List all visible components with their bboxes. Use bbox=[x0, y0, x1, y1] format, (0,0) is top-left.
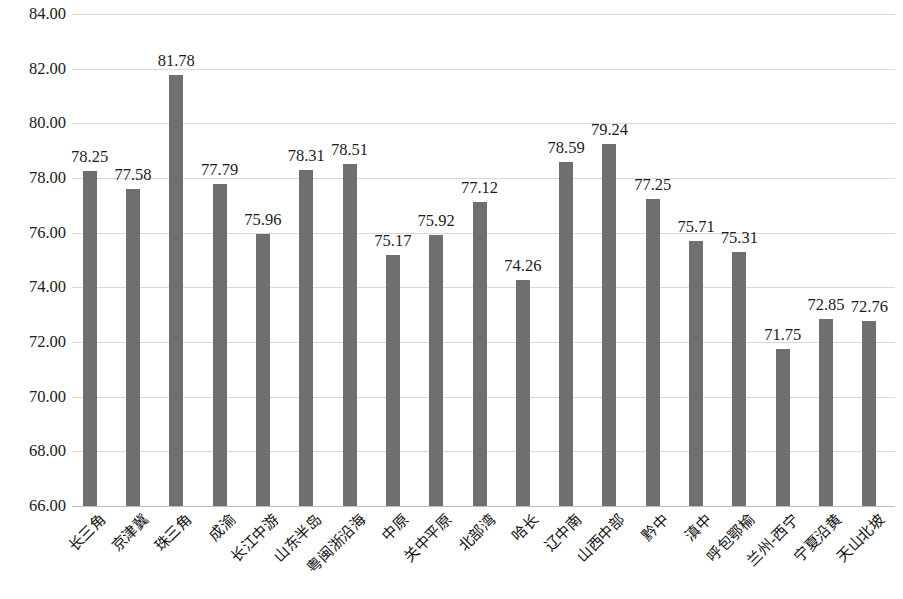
y-axis-tick-label: 74.00 bbox=[0, 279, 66, 296]
bar bbox=[776, 349, 790, 506]
bar bbox=[646, 199, 660, 507]
bar bbox=[473, 202, 487, 506]
bar bbox=[862, 321, 876, 506]
y-axis-tick-label: 78.00 bbox=[0, 170, 66, 187]
y-axis-tick-label: 82.00 bbox=[0, 60, 66, 77]
bar bbox=[213, 184, 227, 506]
bar-value-label: 75.17 bbox=[374, 233, 411, 250]
x-axis: 长三角京津冀珠三角成渝长江中游山东半岛粤闽浙沿海中原关中平原北部湾哈长辽中南山西… bbox=[72, 506, 895, 599]
gridline bbox=[72, 14, 895, 15]
bar bbox=[126, 189, 140, 506]
x-axis-tick-label: 珠三角 bbox=[152, 512, 194, 554]
bar bbox=[256, 234, 270, 506]
bar-value-label: 78.25 bbox=[71, 149, 108, 166]
gridline bbox=[72, 123, 895, 124]
x-axis-tick-label: 长三角 bbox=[66, 512, 108, 554]
gridline bbox=[72, 69, 895, 70]
bar bbox=[689, 241, 703, 506]
y-axis-tick-label: 76.00 bbox=[0, 224, 66, 241]
x-axis-tick-label: 北部湾 bbox=[456, 512, 498, 554]
bar bbox=[732, 252, 746, 506]
bar-value-label: 79.24 bbox=[591, 122, 628, 139]
bar-chart: 66.0068.0070.0072.0074.0076.0078.0080.00… bbox=[0, 0, 903, 599]
bar bbox=[429, 235, 443, 506]
x-axis-tick-label: 京津冀 bbox=[109, 512, 151, 554]
y-axis: 66.0068.0070.0072.0074.0076.0078.0080.00… bbox=[0, 14, 66, 506]
bar bbox=[169, 75, 183, 506]
x-axis-tick-label: 中原 bbox=[380, 512, 412, 544]
bar-value-label: 78.51 bbox=[331, 142, 368, 159]
bar-value-label: 77.58 bbox=[114, 167, 151, 184]
plot-area: 78.2577.5881.7877.7975.9678.3178.5175.17… bbox=[72, 14, 895, 506]
bar-value-label: 75.96 bbox=[244, 212, 281, 229]
bar bbox=[343, 164, 357, 506]
bar-value-label: 77.25 bbox=[634, 177, 671, 194]
x-axis-tick-label: 山西中部 bbox=[575, 512, 628, 565]
bar-value-label: 78.59 bbox=[548, 140, 585, 157]
bar bbox=[83, 171, 97, 506]
x-axis-tick-label: 滇中 bbox=[683, 512, 715, 544]
bar-value-label: 75.71 bbox=[678, 219, 715, 236]
bar bbox=[386, 255, 400, 506]
bar-value-label: 72.76 bbox=[851, 299, 888, 316]
x-axis-tick-label: 哈长 bbox=[510, 512, 542, 544]
bar-value-label: 72.85 bbox=[807, 297, 844, 314]
y-axis-tick-label: 68.00 bbox=[0, 443, 66, 460]
bar-value-label: 81.78 bbox=[158, 53, 195, 70]
bar bbox=[559, 162, 573, 506]
y-axis-tick-label: 80.00 bbox=[0, 115, 66, 132]
bar-value-label: 77.12 bbox=[461, 180, 498, 197]
x-axis-tick-label: 成渝 bbox=[206, 512, 238, 544]
bar-value-label: 75.31 bbox=[721, 230, 758, 247]
bar-value-label: 71.75 bbox=[764, 327, 801, 344]
y-axis-tick-label: 70.00 bbox=[0, 388, 66, 405]
bar bbox=[299, 170, 313, 506]
bar-value-label: 77.79 bbox=[201, 162, 238, 179]
y-axis-tick-label: 72.00 bbox=[0, 334, 66, 351]
bar-value-label: 75.92 bbox=[418, 213, 455, 230]
x-axis-tick-label: 黔中 bbox=[640, 512, 672, 544]
bar bbox=[516, 280, 530, 506]
bar bbox=[819, 319, 833, 506]
bar-value-label: 78.31 bbox=[288, 148, 325, 165]
bar bbox=[602, 144, 616, 506]
y-axis-tick-label: 84.00 bbox=[0, 6, 66, 23]
bar-value-label: 74.26 bbox=[504, 258, 541, 275]
y-axis-tick-label: 66.00 bbox=[0, 498, 66, 515]
